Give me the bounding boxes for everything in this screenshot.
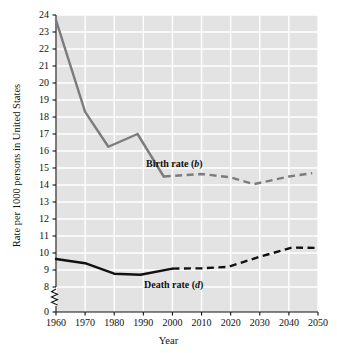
death-rate-label-close: ) [200, 279, 203, 290]
y-tick-label: 24 [25, 10, 49, 20]
y-tick-label: 19 [25, 95, 49, 105]
y-tick-label: 15 [25, 163, 49, 173]
x-tick-label: 2050 [301, 318, 335, 328]
birth-rate-label-text: Birth rate ( [146, 158, 194, 169]
chart-figure: 089101112131415161718192021222324 196019… [0, 0, 337, 353]
y-tick-label: 20 [25, 78, 49, 88]
y-axis-title: Rate per 1000 persons in United States [11, 41, 22, 291]
y-tick-label: 14 [25, 180, 49, 190]
y-tick-label: 0 [25, 307, 49, 317]
y-tick-label: 11 [25, 231, 49, 241]
birth-rate-series-label: Birth rate (b) [146, 158, 203, 169]
y-tick-label: 22 [25, 44, 49, 54]
x-axis-title: Year [0, 335, 337, 346]
line-chart-canvas [0, 0, 337, 353]
y-tick-label: 9 [25, 265, 49, 275]
y-tick-label: 18 [25, 112, 49, 122]
y-tick-label: 13 [25, 197, 49, 207]
y-tick-label: 23 [25, 27, 49, 37]
y-tick-label: 10 [25, 248, 49, 258]
death-rate-label-text: Death rate ( [144, 279, 195, 290]
y-tick-label: 8 [25, 282, 49, 292]
y-tick-label: 17 [25, 129, 49, 139]
death-rate-series-label: Death rate (d) [144, 279, 203, 290]
y-tick-label: 21 [25, 61, 49, 71]
y-tick-label: 12 [25, 214, 49, 224]
y-tick-label: 16 [25, 146, 49, 156]
birth-rate-label-close: ) [199, 158, 202, 169]
